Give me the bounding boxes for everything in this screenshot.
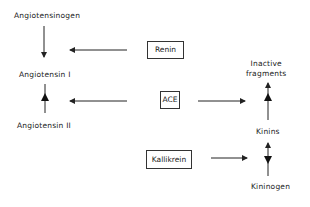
node-kininogen: Kininogen	[251, 183, 290, 191]
enzyme-renin: Renin	[147, 41, 184, 59]
enzyme-ace-label: ACE	[163, 96, 178, 104]
enzyme-kallikrein-label: Kallikrein	[152, 156, 186, 164]
enzyme-ace: ACE	[160, 91, 180, 109]
arrowhead-up-right	[264, 93, 272, 101]
inactive-line-1: Inactive	[246, 59, 286, 69]
arrowhead-up-left	[41, 93, 49, 101]
node-inactive-fragments: Inactive fragments	[246, 59, 286, 79]
node-angiotensin-1: Angiotensin I	[19, 71, 71, 79]
enzyme-renin-label: Renin	[155, 46, 176, 54]
arrows-layer	[0, 0, 310, 207]
arrowhead-down-right	[264, 156, 272, 164]
node-angiotensin-2: Angiotensin II	[17, 122, 71, 130]
node-kinins: Kinins	[256, 128, 280, 136]
inactive-line-2: fragments	[246, 69, 286, 79]
enzyme-kallikrein: Kallikrein	[146, 150, 192, 169]
node-angiotensinogen: Angiotensinogen	[14, 12, 80, 20]
